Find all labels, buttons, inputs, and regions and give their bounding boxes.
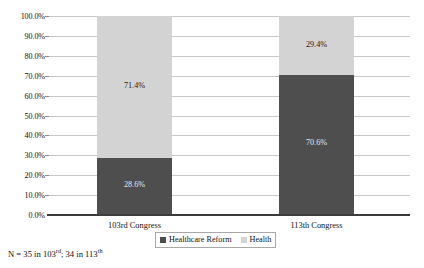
y-tick-label-70: 70.0%	[1, 72, 45, 81]
bar-segment-healthcare-reform-103rd: 28.6%	[97, 158, 172, 215]
y-tick-mark-30	[45, 155, 49, 156]
bar-label-healthcare-reform-103rd: 28.6%	[97, 180, 172, 190]
y-tick-label-100: 100.0%	[1, 12, 45, 21]
footnote-prefix: N = 35 in 103	[8, 249, 56, 259]
bar-segment-health-113th: 29.4%	[279, 16, 354, 75]
bar-label-healthcare-reform-113th: 70.6%	[279, 138, 354, 148]
y-tick-label-0: 0.0%	[1, 211, 45, 220]
bar-label-health-113th: 29.4%	[279, 40, 354, 50]
y-tick-label-90: 90.0%	[1, 32, 45, 41]
y-tick-mark-10	[45, 195, 49, 196]
legend-swatch-icon-health	[241, 237, 247, 243]
y-tick-label-60: 60.0%	[1, 92, 45, 101]
y-tick-mark-90	[45, 36, 49, 37]
y-tick-mark-80	[45, 56, 49, 57]
y-tick-label-80: 80.0%	[1, 52, 45, 61]
y-tick-label-50: 50.0%	[1, 112, 45, 121]
legend-label-healthcare-reform: Healthcare Reform	[169, 234, 232, 245]
bar-segment-healthcare-reform-113th: 70.6%	[279, 75, 354, 216]
bar-segment-health-103rd: 71.4%	[97, 16, 172, 158]
y-tick-mark-50	[45, 116, 49, 117]
x-tick-label-113th-congress: 113th Congress	[264, 220, 369, 231]
y-tick-label-30: 30.0%	[1, 151, 45, 160]
footnote-middle: ; 34 in 113	[61, 249, 98, 259]
legend-item-health: Health	[241, 234, 272, 245]
bar-113th-congress: 29.4% 70.6%	[279, 16, 354, 215]
bar-103rd-congress: 71.4% 28.6%	[97, 16, 172, 215]
legend-swatch-icon-healthcare-reform	[160, 237, 166, 243]
plot-area: 71.4% 28.6% 29.4% 70.6%	[47, 16, 410, 215]
y-tick-mark-70	[45, 76, 49, 77]
y-tick-mark-40	[45, 135, 49, 136]
y-tick-label-10: 10.0%	[1, 191, 45, 200]
footnote-ordinal-th: th	[98, 247, 103, 254]
y-tick-label-40: 40.0%	[1, 131, 45, 140]
y-axis: 100.0% 90.0% 80.0% 70.0% 60.0% 50.0% 40.…	[0, 16, 45, 215]
stacked-bar-chart: 71.4% 28.6% 29.4% 70.6% 100.0% 90.0% 80.…	[0, 0, 424, 268]
legend-item-healthcare-reform: Healthcare Reform	[160, 234, 232, 245]
y-tick-label-20: 20.0%	[1, 171, 45, 180]
y-tick-mark-60	[45, 96, 49, 97]
y-tick-mark-100	[45, 16, 49, 17]
bar-label-health-103rd: 71.4%	[97, 81, 172, 91]
x-tick-label-103rd-congress: 103rd Congress	[82, 220, 187, 231]
x-axis-baseline	[47, 214, 410, 216]
y-tick-mark-20	[45, 175, 49, 176]
legend-label-health: Health	[250, 234, 272, 245]
chart-footnote: N = 35 in 103rd; 34 in 113th	[8, 248, 103, 260]
chart-legend: Healthcare Reform Health	[155, 232, 276, 248]
